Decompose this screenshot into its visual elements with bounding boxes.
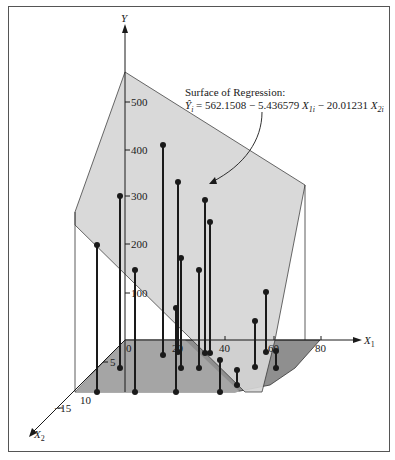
annotation-title: Surface of Regression: xyxy=(185,86,384,99)
x2-tick-10: 10 xyxy=(80,394,91,406)
x2-tick-5: 5 xyxy=(110,356,116,368)
x1-axis-arrow-icon xyxy=(353,337,362,343)
y-tick-300: 300 xyxy=(131,190,148,202)
annotation-equation: Ŷi = 562.1508 − 5.436579 X1i − 20.01231 … xyxy=(185,99,384,116)
x1-tick-20: 20 xyxy=(172,342,183,354)
x2-tick-15: −15 xyxy=(54,402,71,414)
y-axis-arrow-icon xyxy=(122,24,128,33)
y-tick-400: 400 xyxy=(131,144,148,156)
x2-axis-label: X2 xyxy=(34,428,45,445)
x1-tick-0: 0 xyxy=(126,342,132,354)
regression-plot xyxy=(0,0,395,460)
x1-tick-40: 40 xyxy=(219,342,230,354)
y-tick-200: 200 xyxy=(131,238,148,250)
x1-tick-60: 60 xyxy=(268,342,279,354)
y-axis-label: Y xyxy=(121,12,127,24)
x1-axis-label: X1 xyxy=(364,334,375,351)
y-tick-500: 500 xyxy=(131,96,148,108)
regression-annotation: Surface of Regression: Ŷi = 562.1508 − 5… xyxy=(185,86,384,116)
x1-tick-80: 80 xyxy=(315,342,326,354)
y-tick-100: 100 xyxy=(131,287,148,299)
